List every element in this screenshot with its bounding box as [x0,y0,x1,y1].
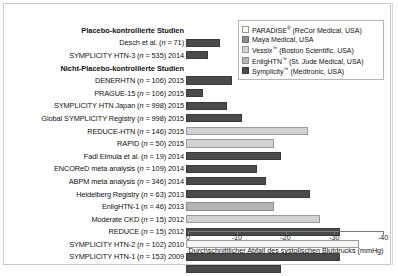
bar-row: ENCOReD meta analysis (n = 109) 2014 [0,163,398,176]
bar-track [186,125,398,138]
bar-track [186,200,398,213]
bar [186,102,227,110]
bar [186,139,274,147]
bar-row: Moderate CKD (n = 15) 2012 [0,213,398,226]
x-tick-label: -40 [378,234,388,241]
study-label: Global SYMPLICITY Registry (n = 998) 201… [0,114,186,123]
legend-label: Maya Medical, USA [252,36,313,44]
bar-track [186,100,398,113]
bar [186,177,266,185]
bar [186,265,281,273]
bar-track [186,150,398,163]
legend-swatch-paradise [242,26,249,33]
bar-track [186,263,398,276]
x-tick-label: 0 [186,234,190,241]
x-tick-label: -30 [329,234,339,241]
bar-track [186,163,398,176]
bar [186,165,257,173]
chart-legend: PARADISE® (ReCor Medical, USA)Maya Medic… [238,20,384,80]
bar-row: Heidelberg Registry (n = 63) 2013 [0,188,398,201]
study-label: DENERHTN (n = 106) 2015 [0,76,186,85]
legend-swatch-vessix [242,46,249,53]
study-label: SYMPLICITY HTN Japan (n = 998) 2015 [0,101,186,110]
bar [186,39,220,47]
study-label: Heidelberg Registry (n = 63) 2013 [0,190,186,199]
bar-track [186,87,398,100]
legend-item: PARADISE® (ReCor Medical, USA) [242,24,379,34]
legend-item: Symplicity™ (Medtronic, USA) [242,66,379,76]
bar [186,202,274,210]
bar-row: SYMPLICITY HTN Japan (n = 998) 2015 [0,100,398,113]
legend-swatch-enlighn [242,57,249,64]
bar-row: ABPM meta analysis (n = 346) 2014 [0,175,398,188]
study-label: ENCOReD meta analysis (n = 109) 2014 [0,164,186,173]
section-heading-label: Nicht-Placebo-kontrollierte Studien [0,64,186,73]
bar [186,215,320,223]
study-label: REDUCE (n = 15) 2012 [0,227,186,236]
bar-track [186,112,398,125]
bar-row: REDUCE-HTN (n = 146) 2015 [0,125,398,138]
study-label: SYMPLICITY HTN-1 (n = 153) 2009 [0,252,186,261]
study-label: Desch et al. (n = 71) [0,38,186,47]
study-label: Moderate CKD (n = 15) 2012 [0,215,186,224]
bar-track [186,213,398,226]
legend-swatch-symplicity [242,67,249,74]
bar-row: RAPID (n = 50) 2015 [0,137,398,150]
bar-row: EnligHTN-1 (n = 46) 2013 [0,200,398,213]
bar [186,76,232,84]
legend-label: PARADISE® (ReCor Medical, USA) [252,24,362,35]
bar [186,89,203,97]
bar [186,190,310,198]
x-tick-label: -20 [280,234,290,241]
bar-track [186,175,398,188]
section-heading-label: Placebo-kontrollierte Studien [0,26,186,35]
bar-track [186,188,398,201]
x-tick-label: -10 [232,234,242,241]
bar [186,152,281,160]
study-label: ABPM meta analysis (n = 346) 2014 [0,177,186,186]
study-label: RAPID (n = 50) 2015 [0,139,186,148]
study-label: PRAGUE-15 (n = 106) 2015 [0,89,186,98]
bar [186,114,242,122]
bar-row: PRAGUE-15 (n = 106) 2015 [0,87,398,100]
study-label: REDUCE-HTN (n = 146) 2015 [0,127,186,136]
bar [186,127,308,135]
study-label: SYMPLICITY HTN-2 (n = 102) 2010 [0,240,186,249]
bar-row: Fadl Elmula et al. (n = 19) 2014 [0,150,398,163]
study-label: EnligHTN-1 (n = 46) 2013 [0,202,186,211]
study-label: Fadl Elmula et al. (n = 19) 2014 [0,152,186,161]
legend-swatch-maya [242,36,249,43]
bar-row: Global SYMPLICITY Registry (n = 998) 201… [0,112,398,125]
bar-row [0,263,398,276]
legend-label: Symplicity™ (Medtronic, USA) [252,65,344,76]
bar [186,51,208,59]
x-axis-title: Durchschnittlicher Abfall des systolisch… [188,246,384,255]
legend-item: Vessix™ (Boston Scientific, USA) [242,45,379,55]
legend-item: EnligHTN™ (St. Jude Medical, USA) [242,55,379,65]
bar-track [186,137,398,150]
study-label: SYMPLICITY HTN-3 (n = 535) 2014 [0,51,186,60]
legend-item: Maya Medical, USA [242,34,379,44]
